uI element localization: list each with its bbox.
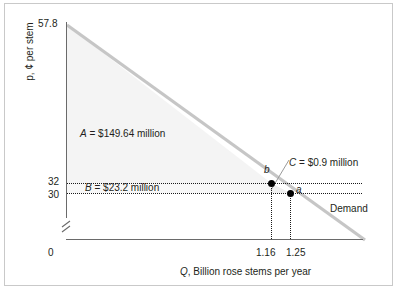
gridline-p30 [67,193,362,194]
y-axis-line [66,22,67,218]
x-axis-title-text: , Billion rose stems per year [188,266,311,277]
x-axis-line [66,239,363,240]
area-b-value: = $23.2 million [92,182,160,193]
area-a-value: = $149.64 million [87,128,166,139]
area-c-label: C = $0.9 million [289,157,358,168]
x-tick-1-25: 1.25 [286,247,305,258]
x-axis-title: Q, Billion rose stems per year [180,266,311,277]
chart-canvas [0,0,398,291]
y-tick-32: 32 [48,176,59,187]
area-b-label: B = $23.2 million [85,182,159,193]
y-tick-30: 30 [48,189,59,200]
gridline-q125 [290,193,291,239]
data-point-a-label: a [296,184,302,195]
area-a-letter: A [80,128,87,139]
x-tick-1-16: 1.16 [256,247,275,258]
area-b-letter: B [85,182,92,193]
origin-label: 0 [48,247,54,258]
demand-curve-label: Demand [330,203,368,214]
data-point-a[interactable] [287,190,294,197]
data-point-b[interactable] [268,180,275,187]
axis-break-icon [62,221,70,232]
data-point-b-label: b [264,164,270,175]
area-c-value: = $0.9 million [296,157,358,168]
chart-figure: b a 57.8 32 30 0 1.16 1.25 p, ¢ per stem… [0,0,398,291]
y-axis-title: p, ¢ per stem [24,4,35,100]
area-a-label: A = $149.64 million [80,128,165,139]
gridline-q116 [271,183,272,239]
x-axis-title-symbol: Q [180,266,188,277]
y-tick-57-8: 57.8 [38,18,57,29]
